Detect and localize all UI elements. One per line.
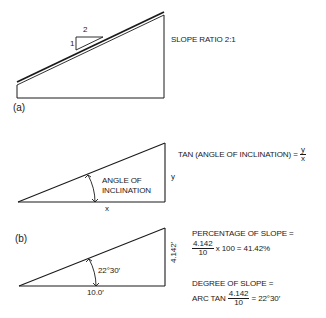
panel-a-label: (a) bbox=[13, 102, 25, 113]
percentage-result: x 100 = 41.42% bbox=[216, 244, 270, 253]
y-label: y bbox=[171, 172, 175, 181]
angle-label-line2: INCLINATION bbox=[102, 186, 151, 195]
degree-fraction: 4.142 10 bbox=[228, 290, 250, 307]
rise-label: 1 bbox=[70, 39, 74, 48]
percentage-fraction: 4.142 10 bbox=[192, 240, 214, 257]
run-label: 2 bbox=[83, 25, 87, 34]
tan-formula-fraction: y x bbox=[300, 146, 306, 163]
base-value: 10.0′ bbox=[87, 288, 104, 297]
degree-formula: ARC TAN 4.142 10 = 22°30′ bbox=[192, 290, 280, 307]
x-label: x bbox=[105, 204, 109, 213]
degree-result: = 22°30′ bbox=[251, 294, 280, 303]
slope-ratio-text: SLOPE RATIO 2:1 bbox=[171, 35, 236, 44]
angle-label-line1: ANGLE OF bbox=[102, 176, 142, 185]
degree-prefix: ARC TAN bbox=[192, 294, 226, 303]
height-value: 4.142′ bbox=[169, 242, 178, 263]
example-triangle bbox=[19, 228, 165, 286]
angle-arc bbox=[85, 175, 98, 202]
degree-title: DEGREE OF SLOPE = bbox=[192, 279, 273, 288]
tan-formula: TAN (ANGLE OF INCLINATION) = y x bbox=[178, 146, 306, 163]
percentage-formula: 4.142 10 x 100 = 41.42% bbox=[192, 240, 270, 257]
angle-value: 22°30′ bbox=[98, 266, 120, 275]
percentage-title: PERCENTAGE OF SLOPE = bbox=[192, 229, 294, 238]
panel-b-label: (b) bbox=[15, 233, 27, 244]
tan-formula-prefix: TAN (ANGLE OF INCLINATION) = bbox=[178, 150, 298, 159]
slope-ratio-triangle bbox=[17, 12, 164, 98]
